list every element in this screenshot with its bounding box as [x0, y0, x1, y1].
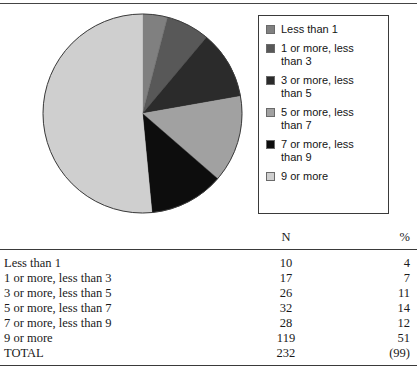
- legend-item-less-than-1[interactable]: Less than 1: [266, 23, 384, 36]
- cell-pct: 7: [340, 271, 417, 286]
- header-category: [0, 230, 232, 249]
- pie-slice-5[interactable]: [43, 14, 152, 213]
- pie-chart: [42, 13, 243, 214]
- cell-label: 9 or more: [0, 331, 232, 346]
- legend-item-9-or-more[interactable]: 9 or more: [266, 170, 384, 183]
- cell-n: 32: [232, 301, 340, 316]
- pie-chart-svg: [42, 13, 243, 214]
- table-header-row: N %: [0, 230, 417, 249]
- table-row: TOTAL232(99): [0, 346, 417, 361]
- legend-label-1-to-3: 1 or more, less than 3: [281, 42, 377, 68]
- cell-label: 5 or more, less than 7: [0, 301, 232, 316]
- legend-swatch-less-than-1: [266, 25, 275, 34]
- cell-n: 26: [232, 286, 340, 301]
- cell-pct: 12: [340, 316, 417, 331]
- cell-label: 3 or more, less than 5: [0, 286, 232, 301]
- cell-n: 17: [232, 271, 340, 286]
- legend-label-9-or-more: 9 or more: [281, 170, 377, 183]
- cell-label: 7 or more, less than 9: [0, 316, 232, 331]
- cell-pct: 14: [340, 301, 417, 316]
- cell-n: 28: [232, 316, 340, 331]
- cell-n: 10: [232, 256, 340, 271]
- cell-pct: 4: [340, 256, 417, 271]
- chart-legend: Less than 1 1 or more, less than 3 3 or …: [258, 15, 389, 214]
- bottom-rule: [0, 365, 417, 366]
- cell-label: Less than 1: [0, 256, 232, 271]
- cell-pct: 11: [340, 286, 417, 301]
- legend-label-3-to-5: 3 or more, less than 5: [281, 74, 377, 100]
- legend-swatch-5-to-7: [266, 108, 275, 117]
- figure-region: Less than 1 1 or more, less than 3 3 or …: [0, 6, 417, 218]
- header-pct: %: [340, 230, 417, 249]
- legend-swatch-1-to-3: [266, 44, 275, 53]
- cell-n: 119: [232, 331, 340, 346]
- top-divider: [0, 3, 417, 4]
- legend-item-3-to-5[interactable]: 3 or more, less than 5: [266, 74, 384, 100]
- legend-swatch-3-to-5: [266, 76, 275, 85]
- cell-pct: (99): [340, 346, 417, 361]
- legend-swatch-9-or-more: [266, 172, 275, 181]
- header-n: N: [232, 230, 340, 249]
- legend-label-5-to-7: 5 or more, less than 7: [281, 106, 377, 132]
- table-row: 1 or more, less than 3177: [0, 271, 417, 286]
- cell-label: TOTAL: [0, 346, 232, 361]
- table-body: Less than 11041 or more, less than 31773…: [0, 256, 417, 361]
- bottom-rule-wrap: [0, 365, 417, 366]
- table-head: N %: [0, 230, 417, 256]
- stats-table-region: N % Less than 11041 or more, less than 3…: [0, 230, 417, 366]
- legend-item-5-to-7[interactable]: 5 or more, less than 7: [266, 106, 384, 132]
- legend-label-less-than-1: Less than 1: [281, 23, 377, 36]
- legend-swatch-7-to-9: [266, 140, 275, 149]
- table-row: Less than 1104: [0, 256, 417, 271]
- stats-table: N % Less than 11041 or more, less than 3…: [0, 230, 417, 361]
- cell-pct: 51: [340, 331, 417, 346]
- table-row: 7 or more, less than 92812: [0, 316, 417, 331]
- legend-label-7-to-9: 7 or more, less than 9: [281, 138, 377, 164]
- legend-item-7-to-9[interactable]: 7 or more, less than 9: [266, 138, 384, 164]
- table-row: 3 or more, less than 52611: [0, 286, 417, 301]
- cell-label: 1 or more, less than 3: [0, 271, 232, 286]
- legend-item-1-to-3[interactable]: 1 or more, less than 3: [266, 42, 384, 68]
- table-row: 9 or more11951: [0, 331, 417, 346]
- cell-n: 232: [232, 346, 340, 361]
- table-row: 5 or more, less than 73214: [0, 301, 417, 316]
